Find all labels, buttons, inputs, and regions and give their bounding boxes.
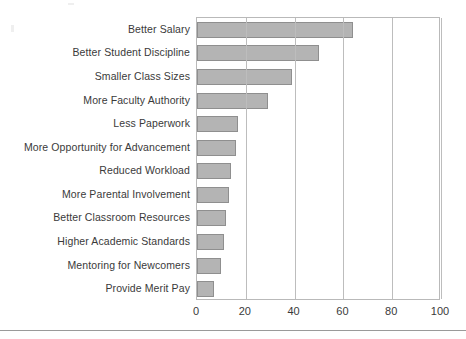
bar-chart-figure: Better SalaryBetter Student DisciplineSm… bbox=[0, 0, 466, 339]
category-label: Higher Academic Standards bbox=[0, 235, 190, 247]
category-label: Mentoring for Newcomers bbox=[0, 259, 190, 271]
bar-row bbox=[197, 160, 441, 184]
x-tick-label-40: 40 bbox=[287, 304, 299, 318]
x-tick-label-0: 0 bbox=[193, 304, 199, 318]
plot-area bbox=[196, 17, 440, 300]
bar-row bbox=[197, 65, 441, 89]
bar bbox=[197, 281, 214, 297]
bar-row bbox=[197, 183, 441, 207]
category-label: More Parental Involvement bbox=[0, 188, 190, 200]
bar bbox=[197, 116, 238, 132]
category-label: Less Paperwork bbox=[0, 117, 190, 129]
bar bbox=[197, 163, 231, 179]
bar-row bbox=[197, 112, 441, 136]
category-label: Reduced Workload bbox=[0, 164, 190, 176]
scan-artifact bbox=[68, 3, 74, 5]
bar-row bbox=[197, 42, 441, 66]
bar bbox=[197, 234, 224, 250]
bar bbox=[197, 45, 319, 61]
bar bbox=[197, 93, 268, 109]
bars-layer bbox=[197, 18, 439, 299]
category-label: More Opportunity for Advancement bbox=[0, 141, 190, 153]
bar-row bbox=[197, 230, 441, 254]
bar-row bbox=[197, 18, 441, 42]
gridline-20 bbox=[246, 18, 247, 299]
bar bbox=[197, 258, 221, 274]
category-label: Better Salary bbox=[0, 23, 190, 35]
category-label: Better Classroom Resources bbox=[0, 211, 190, 223]
category-axis-labels: Better SalaryBetter Student DisciplineSm… bbox=[0, 17, 190, 300]
x-tick-label-20: 20 bbox=[239, 304, 251, 318]
bar-row bbox=[197, 89, 441, 113]
gridline-60 bbox=[343, 18, 344, 299]
value-axis-tick-labels: 020406080100 bbox=[0, 304, 466, 320]
gridline-80 bbox=[392, 18, 393, 299]
bar-row bbox=[197, 136, 441, 160]
bar-row bbox=[197, 207, 441, 231]
bar bbox=[197, 22, 353, 38]
x-tick-label-60: 60 bbox=[336, 304, 348, 318]
gridline-100 bbox=[441, 18, 442, 299]
category-label: Provide Merit Pay bbox=[0, 282, 190, 294]
category-label: Better Student Discipline bbox=[0, 46, 190, 58]
x-tick-label-100: 100 bbox=[431, 304, 449, 318]
x-tick-label-80: 80 bbox=[385, 304, 397, 318]
bar bbox=[197, 69, 292, 85]
bar bbox=[197, 140, 236, 156]
bar bbox=[197, 187, 229, 203]
bar bbox=[197, 210, 226, 226]
category-label: More Faculty Authority bbox=[0, 94, 190, 106]
gridline-40 bbox=[295, 18, 296, 299]
bar-row bbox=[197, 254, 441, 278]
footer-rule bbox=[0, 330, 466, 331]
bar-row bbox=[197, 277, 441, 301]
category-label: Smaller Class Sizes bbox=[0, 70, 190, 82]
